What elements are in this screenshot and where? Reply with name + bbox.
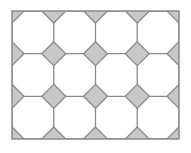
square-tile [84, 84, 108, 108]
square-tile [125, 42, 149, 66]
square-tile [42, 42, 66, 66]
square-tile [42, 84, 66, 108]
square-tile [125, 84, 149, 108]
tiles [0, 0, 191, 151]
octagon-square-tiling [0, 0, 191, 153]
square-tile [84, 42, 108, 66]
